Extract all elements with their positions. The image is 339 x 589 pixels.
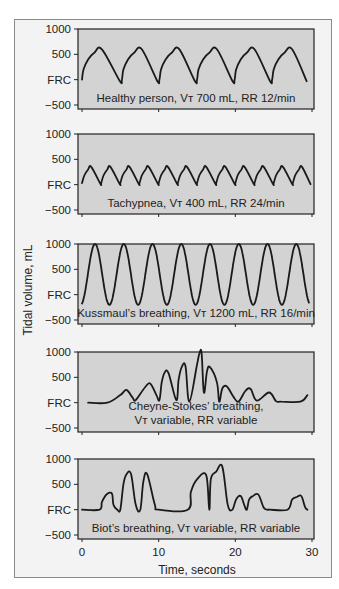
y-tick-label: −500	[45, 422, 71, 434]
y-tick-label: −500	[45, 314, 71, 326]
breathing-patterns-chart: 1000500FRC−500Healthy person, Vᴛ 700 mL,…	[0, 0, 339, 589]
panel-label: Kussmaul’s breathing, Vᴛ 1200 mL, RR 16/…	[77, 307, 315, 319]
y-tick-label: 1000	[45, 238, 71, 250]
y-tick-label: 1000	[45, 346, 71, 358]
panel-kussmaul-s-breathing: 1000500FRC−500Kussmaul’s breathing, Vᴛ 1…	[45, 238, 315, 327]
y-tick-label: 500	[52, 48, 71, 60]
y-tick-label: 500	[52, 478, 71, 490]
y-tick-label: 500	[52, 371, 71, 383]
y-tick-label: 500	[52, 263, 71, 275]
panel-label: Biot’s breathing, Vᴛ variable, RR variab…	[92, 522, 300, 534]
panel-tachypnea: 1000500FRC−500Tachypnea, Vᴛ 400 mL, RR 2…	[45, 128, 314, 217]
x-axis-title: Time, seconds	[158, 563, 236, 577]
y-tick-label: −500	[45, 204, 71, 216]
panel-cheyne-stokes-breathing: 1000500FRC−500Cheyne-Stokes’ breathing,V…	[45, 346, 314, 435]
x-tick-label: 30	[306, 546, 319, 558]
y-tick-label: FRC	[47, 504, 71, 516]
y-tick-label: FRC	[47, 397, 71, 409]
y-tick-label: 1000	[45, 23, 71, 35]
panel-healthy-person: 1000500FRC−500Healthy person, Vᴛ 700 mL,…	[45, 23, 314, 112]
y-tick-label: −500	[45, 99, 71, 111]
x-tick-label: 10	[152, 546, 165, 558]
y-tick-label: 500	[52, 153, 71, 165]
panels-group: 1000500FRC−500Healthy person, Vᴛ 700 mL,…	[45, 23, 315, 542]
y-tick-label: −500	[45, 529, 71, 541]
y-tick-label: FRC	[47, 179, 71, 191]
panel-label: Healthy person, Vᴛ 700 mL, RR 12/min	[97, 92, 296, 104]
y-tick-label: FRC	[47, 289, 71, 301]
y-tick-label: 1000	[45, 128, 71, 140]
y-axis-title: Tidal volume, mL	[21, 244, 35, 335]
x-tick-label: 20	[229, 546, 242, 558]
x-tick-label: 0	[79, 546, 85, 558]
y-tick-label: FRC	[47, 74, 71, 86]
x-axis: 0102030	[79, 546, 319, 558]
panel-label: Cheyne-Stokes’ breathing,	[128, 400, 263, 412]
panel-biot-s-breathing: 1000500FRC−500Biot’s breathing, Vᴛ varia…	[45, 453, 314, 542]
y-tick-label: 1000	[45, 453, 71, 465]
panel-label: Vᴛ variable, RR variable	[135, 414, 258, 426]
panel-label: Tachypnea, Vᴛ 400 mL, RR 24/min	[107, 197, 284, 209]
